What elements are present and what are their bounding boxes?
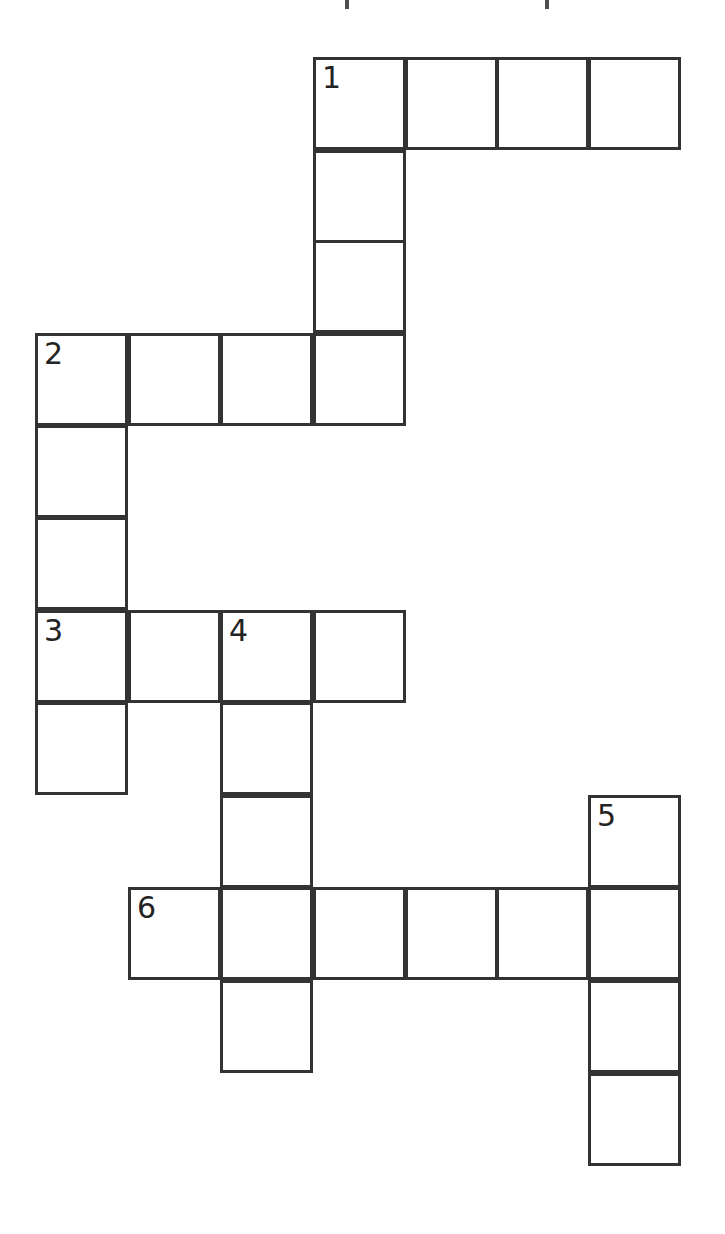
crossword-clue-number: 5 [597, 799, 616, 833]
crossword-cell[interactable] [35, 702, 128, 795]
crossword-cell[interactable] [496, 57, 589, 150]
crossword-cell[interactable] [128, 610, 221, 703]
crossword-cell[interactable] [220, 795, 313, 888]
puzzle-sheet: 123456 [0, 0, 725, 1234]
crossword-cell[interactable]: 4 [220, 610, 313, 703]
crossword-cell[interactable] [220, 702, 313, 795]
crossword-cell[interactable] [35, 517, 128, 610]
crossword-clue-number: 2 [44, 337, 63, 371]
crossword-cell[interactable] [588, 980, 681, 1073]
crossword-cell[interactable] [35, 425, 128, 518]
crossword-cell[interactable] [405, 887, 498, 980]
crossword-cell[interactable]: 6 [128, 887, 221, 980]
crossword-cell[interactable] [313, 887, 406, 980]
crossword-cell[interactable]: 5 [588, 795, 681, 888]
crossword-grid[interactable]: 123456 [0, 0, 725, 1234]
crossword-cell[interactable] [313, 150, 406, 243]
crossword-cell[interactable] [220, 887, 313, 980]
crossword-clue-number: 1 [322, 61, 341, 95]
crossword-cell[interactable] [496, 887, 589, 980]
crossword-cell[interactable] [405, 57, 498, 150]
crossword-cell[interactable] [313, 333, 406, 426]
crossword-clue-number: 4 [229, 614, 248, 648]
crossword-clue-number: 6 [137, 891, 156, 925]
crossword-cell[interactable]: 2 [35, 333, 128, 426]
crossword-cell[interactable]: 3 [35, 610, 128, 703]
crossword-cell[interactable] [220, 333, 313, 426]
crossword-cell[interactable] [588, 887, 681, 980]
crossword-cell[interactable] [588, 57, 681, 150]
crossword-cell[interactable] [128, 333, 221, 426]
crossword-cell[interactable] [588, 1073, 681, 1166]
crossword-clue-number: 3 [44, 614, 63, 648]
crossword-cell[interactable] [220, 980, 313, 1073]
crossword-cell[interactable] [313, 240, 406, 333]
crossword-cell[interactable]: 1 [313, 57, 406, 150]
crossword-cell[interactable] [313, 610, 406, 703]
